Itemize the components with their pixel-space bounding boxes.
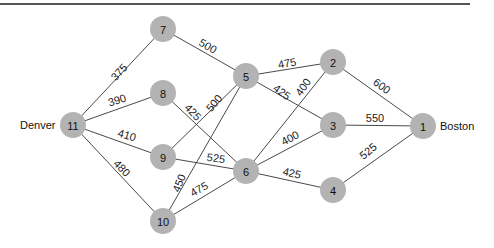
edges-layer [73,29,423,221]
edge-5-3 [246,76,333,125]
edge-6-2 [246,62,333,171]
node-label: 5 [243,71,249,83]
edge-weight-label: 450 [170,172,188,194]
edge-weight-label: 475 [188,179,210,199]
node-label: 11 [67,120,78,132]
edge-weight-label: 600 [371,76,393,96]
node-11: 11 [60,112,86,138]
edge-weight-label: 425 [182,101,203,123]
edge-11-10 [73,125,163,221]
node-6: 6 [233,158,259,184]
city-label-boston: Boston [440,120,474,132]
edge-weight-label: 400 [279,128,301,147]
network-diagram: 3753904104805004255005254504754754254004… [0,0,494,248]
node-4: 4 [320,177,346,203]
edge-9-5 [163,76,246,157]
node-3: 3 [320,112,346,138]
edge-3-1 [333,125,423,126]
edge-4-1 [333,126,423,190]
node-label: 4 [330,185,336,197]
node-1: 1 [410,113,436,139]
node-10: 10 [150,208,176,234]
edge-weight-label: 500 [204,92,225,114]
edge-weight-label: 480 [111,157,132,179]
edge-weight-label: 390 [106,92,127,109]
edge-weight-label: 525 [206,151,226,165]
node-label: 6 [243,166,249,178]
edge-10-5 [163,76,246,221]
node-label: 10 [157,216,169,228]
node-label: 2 [330,57,336,69]
node-label: 7 [160,24,166,36]
edge-weight-label: 400 [293,76,313,98]
edge-weight-label: 375 [108,61,129,83]
edge-weight-label: 410 [116,127,137,144]
edge-weight-label: 425 [282,165,303,181]
edge-weight-label: 425 [271,82,293,102]
edge-weight-label: 550 [366,112,384,124]
city-label-denver: Denver [20,119,56,131]
node-label: 3 [330,120,336,132]
node-label: 8 [160,88,166,100]
node-2: 2 [320,49,346,75]
node-5: 5 [233,63,259,89]
node-label: 9 [160,152,166,164]
node-9: 9 [150,144,176,170]
edge-weight-label: 500 [197,36,219,56]
edge-weight-label: 525 [357,141,379,162]
node-8: 8 [150,80,176,106]
node-label: 1 [420,121,426,133]
nodes-layer: 1234567891011 [60,16,436,234]
node-7: 7 [150,16,176,42]
